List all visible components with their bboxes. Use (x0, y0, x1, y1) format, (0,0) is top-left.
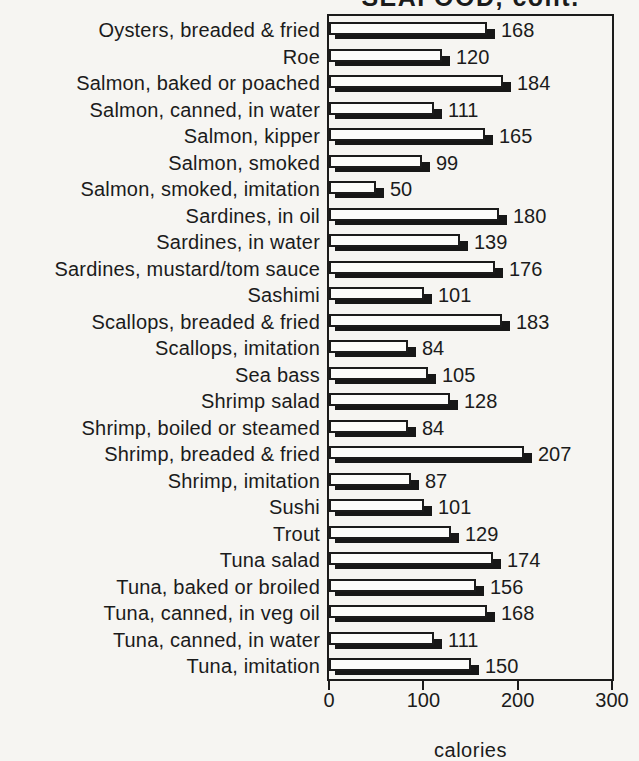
bar (329, 261, 495, 274)
bar-row: 183 (329, 308, 612, 335)
category-label: Sardines, mustard/tom sauce (0, 256, 320, 283)
category-label: Sushi (0, 494, 320, 521)
bar-row: 168 (329, 16, 612, 43)
category-label: Scallops, imitation (0, 335, 320, 362)
x-axis-label: calories (329, 739, 612, 761)
bar-row: 101 (329, 281, 612, 308)
bar-row: 174 (329, 546, 612, 573)
category-label: Tuna, canned, in water (0, 627, 320, 654)
bar (329, 552, 493, 565)
category-label: Tuna, imitation (0, 653, 320, 680)
bar (329, 499, 424, 512)
tick-label: 300 (595, 689, 628, 712)
bar (329, 49, 442, 62)
bar (329, 632, 434, 645)
bar-row: 84 (329, 414, 612, 441)
bar (329, 75, 503, 88)
bar (329, 473, 411, 486)
category-label: Salmon, baked or poached (0, 70, 320, 97)
value-label: 120 (456, 44, 489, 71)
value-label: 207 (538, 441, 571, 468)
bar (329, 102, 434, 115)
value-label: 84 (422, 335, 444, 362)
bar (329, 128, 485, 141)
category-labels-column: Oysters, breaded & fried Roe Salmon, bak… (0, 14, 327, 761)
value-label: 184 (517, 70, 550, 97)
bar (329, 287, 424, 300)
bar (329, 314, 502, 327)
value-label: 111 (448, 627, 478, 654)
bar-row: 84 (329, 334, 612, 361)
bar-row: 111 (329, 96, 612, 123)
value-label: 180 (513, 203, 546, 230)
bar (329, 155, 422, 168)
tick-label: 100 (407, 689, 440, 712)
category-label: Salmon, canned, in water (0, 97, 320, 124)
bar-row: 87 (329, 467, 612, 494)
bar (329, 367, 428, 380)
bar-row: 168 (329, 599, 612, 626)
value-label: 87 (425, 468, 447, 495)
value-label: 50 (390, 176, 412, 203)
category-label: Oysters, breaded & fried (0, 17, 320, 44)
category-label: Scallops, breaded & fried (0, 309, 320, 336)
category-label: Sea bass (0, 362, 320, 389)
bar-row: 120 (329, 43, 612, 70)
tick-label: 200 (501, 689, 534, 712)
bar-row: 184 (329, 69, 612, 96)
bar (329, 605, 487, 618)
category-label: Tuna, baked or broiled (0, 574, 320, 601)
bar-row: 128 (329, 387, 612, 414)
bar-row: 150 (329, 652, 612, 679)
bar-row: 101 (329, 493, 612, 520)
bar-row: 99 (329, 149, 612, 176)
value-label: 101 (438, 494, 471, 521)
bar (329, 446, 524, 459)
bar-row: 50 (329, 175, 612, 202)
value-label: 183 (516, 309, 549, 336)
category-label: Trout (0, 521, 320, 548)
bar (329, 420, 408, 433)
value-label: 168 (501, 17, 534, 44)
category-label: Sardines, in oil (0, 203, 320, 230)
category-label: Salmon, smoked (0, 150, 320, 177)
category-label: Sardines, in water (0, 229, 320, 256)
bar (329, 579, 476, 592)
bar (329, 181, 376, 194)
bar (329, 234, 460, 247)
seafood-calories-bar-chart: Oysters, breaded & fried Roe Salmon, bak… (0, 14, 639, 761)
category-label: Tuna salad (0, 547, 320, 574)
category-label: Shrimp, boiled or steamed (0, 415, 320, 442)
category-label: Shrimp, imitation (0, 468, 320, 495)
chart-title: SEAFOOD, cont. (327, 0, 614, 10)
value-label: 111 (448, 97, 478, 124)
value-label: 105 (442, 362, 475, 389)
value-label: 176 (509, 256, 542, 283)
tick-label: 0 (323, 689, 334, 712)
bar-row: 207 (329, 440, 612, 467)
bar (329, 208, 499, 221)
bar (329, 658, 471, 671)
value-label: 156 (490, 574, 523, 601)
bar (329, 526, 451, 539)
bar-row: 156 (329, 573, 612, 600)
value-label: 165 (499, 123, 532, 150)
category-label: Sashimi (0, 282, 320, 309)
plot-column: 168 120 184 111 165 99 50 180 13 (327, 14, 639, 761)
bar-row: 111 (329, 626, 612, 653)
plot-area: 168 120 184 111 165 99 50 180 13 (327, 14, 614, 681)
value-label: 168 (501, 600, 534, 627)
value-label: 84 (422, 415, 444, 442)
value-label: 99 (436, 150, 458, 177)
value-label: 128 (464, 388, 497, 415)
category-label: Salmon, smoked, imitation (0, 176, 320, 203)
chart-title-text: SEAFOOD, cont. (361, 0, 579, 10)
bar-row: 129 (329, 520, 612, 547)
category-label: Tuna, canned, in veg oil (0, 600, 320, 627)
bar (329, 393, 450, 406)
bar-row: 176 (329, 255, 612, 282)
category-label: Shrimp salad (0, 388, 320, 415)
category-label: Salmon, kipper (0, 123, 320, 150)
category-label: Shrimp, breaded & fried (0, 441, 320, 468)
